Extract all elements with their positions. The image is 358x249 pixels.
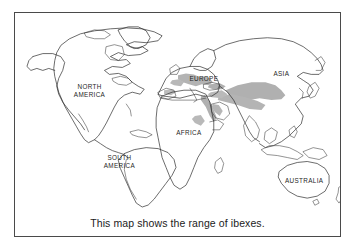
canada-arctic-islands <box>85 30 111 39</box>
hudson-bay-outline <box>105 45 124 61</box>
label-asia: ASIA <box>273 70 289 77</box>
label-south-america: SOUTH <box>107 154 131 161</box>
southeast-asia-outline <box>264 128 277 144</box>
caribbean-islands <box>130 130 152 138</box>
figure-frame: NORTH AMERICA SOUTH AMERICA EUROPE AFRIC… <box>14 12 341 237</box>
world-map: NORTH AMERICA SOUTH AMERICA EUROPE AFRIC… <box>15 13 340 210</box>
label-africa: AFRICA <box>176 129 202 136</box>
korea-peninsula <box>299 88 303 98</box>
indonesia-islands <box>261 146 303 160</box>
ibex-range-layer <box>164 73 285 125</box>
figure-caption: This map shows the range of ibexes. <box>90 217 265 229</box>
india-peninsula <box>244 116 260 142</box>
greenland-outline <box>118 27 150 49</box>
scandinavia-outline <box>190 49 216 71</box>
label-north-america-line2: AMERICA <box>74 91 106 98</box>
range-northeast-africa <box>192 115 205 126</box>
caption-strip: This map shows the range of ibexes. <box>15 210 340 236</box>
continent-labels: NORTH AMERICA SOUTH AMERICA EUROPE AFRIC… <box>74 70 324 184</box>
world-map-svg: NORTH AMERICA SOUTH AMERICA EUROPE AFRIC… <box>15 13 340 210</box>
madagascar-outline <box>215 158 224 174</box>
label-north-america: NORTH <box>77 83 101 90</box>
florida-peninsula <box>126 104 131 116</box>
tasmania-outline <box>313 199 319 205</box>
alaska-outline <box>27 57 55 71</box>
figure-container: NORTH AMERICA SOUTH AMERICA EUROPE AFRIC… <box>0 0 358 249</box>
mediterranean-sea <box>160 98 206 100</box>
horn-of-africa <box>210 120 224 130</box>
label-south-america-line2: AMERICA <box>104 162 136 169</box>
label-australia: AUSTRALIA <box>285 177 324 184</box>
new-guinea-outline <box>303 148 327 160</box>
great-lakes-outline <box>112 76 132 85</box>
label-europe: EUROPE <box>189 75 218 82</box>
new-zealand-outline <box>336 183 340 203</box>
